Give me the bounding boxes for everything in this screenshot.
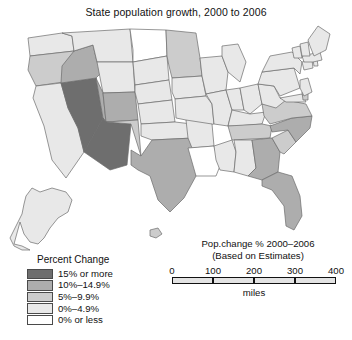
state-ia (172, 76, 206, 99)
state-co (103, 92, 138, 122)
scale-tick-label: 400 (328, 265, 344, 276)
legend-swatch (27, 303, 53, 313)
state-nj (300, 78, 312, 96)
scale-tick-mark (294, 277, 296, 284)
legend-item: 10%–14.9% (27, 280, 152, 292)
legend-item: 5%–9.9% (27, 291, 152, 303)
state-wy (97, 62, 135, 93)
state-fl (262, 172, 302, 230)
legend-item: 15% or more (27, 268, 152, 280)
legend-label: 10%–14.9% (58, 280, 110, 290)
state-nh (300, 42, 310, 56)
legend-swatch (27, 292, 53, 302)
legend-item: 0% or less (27, 314, 152, 326)
state-ar (186, 120, 214, 148)
state-tn (228, 124, 272, 140)
map-legend: Percent Change 15% or more10%–14.9%5%–9.… (27, 254, 152, 326)
scale-tick-label: 100 (205, 265, 221, 276)
legend-rows: 15% or more10%–14.9%5%–9.9%0%–4.9%0% or … (27, 268, 152, 326)
legend-label: 5%–9.9% (58, 292, 99, 302)
legend-label: 0%–4.9% (58, 304, 99, 314)
scale-caption-line2: (Based on Estimates) (172, 250, 344, 262)
scale-tick-label: 200 (246, 265, 262, 276)
legend-swatch (27, 269, 53, 279)
legend-label: 0% or less (58, 315, 103, 325)
legend-swatch (27, 280, 53, 290)
state-ks (138, 100, 175, 124)
legend-swatch (27, 315, 53, 325)
legend-item: 0%–4.9% (27, 303, 152, 315)
legend-title: Percent Change (37, 254, 152, 265)
state-ok (141, 122, 193, 140)
scale-numbers: 0100200300400 (172, 265, 344, 277)
states-layer (28, 26, 330, 230)
state-ak (10, 188, 72, 250)
scale-tick-mark (253, 277, 255, 284)
scale-tick-label: 300 (287, 265, 303, 276)
state-mn (166, 30, 202, 78)
scale-caption-line1: Pop.change % 2000–2006 (172, 238, 344, 250)
scale-tick-mark (212, 277, 214, 284)
state-me (308, 26, 330, 56)
legend-label: 15% or more (58, 269, 113, 279)
state-hi (150, 228, 162, 238)
inset-layer (10, 188, 162, 250)
scale-unit-label: miles (172, 287, 336, 298)
scale-tick-label: 0 (169, 265, 174, 276)
scale-block: Pop.change % 2000–2006 (Based on Estimat… (172, 238, 344, 298)
scale-bar-wrap (172, 277, 344, 286)
